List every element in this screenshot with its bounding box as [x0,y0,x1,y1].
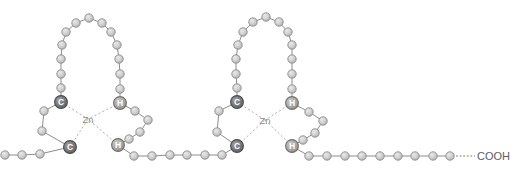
zinc-finger-2-cys-linker-bead-0 [215,107,223,115]
zinc-finger-2-hairpin-bead-5 [249,18,257,26]
zinc-finger-1-hairpin-bead-2 [57,55,65,63]
zinc-finger-2-hairpin-bead-10 [288,55,296,63]
zinc-finger-1-hairpin-bead-8 [107,28,115,36]
zinc-finger-2-hairpin-bead-8 [284,28,292,36]
zinc-coordination-layer [61,102,292,147]
zinc-finger-1-hairpin-bead-10 [115,55,123,63]
zinc-finger-1-his-linker-bead-0 [131,107,139,115]
zinc-finger-1-his-1 [114,97,127,110]
zinc-finger-1-hairpin-bead-3 [58,41,66,49]
inter-finger-backbone-bead-5 [218,151,226,159]
zinc-finger-2-his-linker-bead-2 [311,129,319,137]
zinc-finger-1-his-linker-bead-3 [125,135,133,143]
c-terminal-backbone-bead-8 [446,152,454,160]
zinc-finger-1-hairpin-bead-9 [113,41,121,49]
zinc-finger-2-cys-3 [231,96,244,109]
inter-finger-backbone-bead-0 [130,152,138,160]
zinc-finger-2-hairpin-bead-1 [232,70,240,78]
c-terminal-backbone-bead-5 [394,152,402,160]
n-terminal-backbone-bead-1 [18,151,26,159]
c-terminal-backbone-bead-7 [429,152,437,160]
zinc-finger-diagram-canvas: CCHHZnCCHHZnCOOH [0,0,522,170]
zinc-finger-1-his-2 [112,139,125,152]
c-terminal-backbone-bead-0 [305,152,313,160]
zinc-finger-1-hairpin-bead-11 [116,70,124,78]
residue-beads-layer [1,13,454,160]
c-terminal-backbone-bead-3 [358,152,366,160]
zinc-finger-1-hairpin-bead-4 [62,28,70,36]
zinc-finger-1-hairpin-bead-0 [57,84,65,92]
zinc-finger-2-hairpin-bead-12 [288,85,296,93]
zinc-finger-2-his-linker-bead-0 [305,108,313,116]
zinc-finger-2-his-4 [286,140,299,153]
zinc-finger-1-hairpin-bead-6 [85,14,93,22]
zinc-finger-1-cys-2 [64,141,77,154]
c-terminal-backbone-bead-1 [323,152,331,160]
c-terminal-backbone-bead-4 [376,152,384,160]
zinc-finger-1-his-linker-bead-2 [136,128,144,136]
zinc-finger-2-hairpin-bead-9 [288,41,296,49]
zinc-finger-2-cys-linker-bead-1 [213,128,221,136]
zinc-finger-1-cys-1 [55,96,68,109]
zinc-finger-1-cys-linker-bead-1 [38,127,46,135]
zinc-finger-2-his-linker-bead-3 [299,136,307,144]
zinc-finger-2-cys-4 [231,140,244,153]
c-terminal-backbone-bead-6 [411,152,419,160]
zinc-finger-2-hairpin-bead-11 [288,70,296,78]
c-terminal-backbone-bead-2 [341,152,349,160]
inter-finger-backbone-bead-4 [201,151,209,159]
zinc-finger-2-hairpin-bead-2 [232,55,240,63]
zinc-finger-2-hairpin-bead-3 [234,41,242,49]
zinc-finger-figure: CCHHZnCCHHZnCOOH [0,0,522,170]
zinc-finger-2-hairpin-bead-0 [233,84,241,92]
zinc-finger-1-cys-linker-bead-0 [40,107,48,115]
zinc-finger-2-hairpin-bead-4 [239,28,247,36]
inter-finger-backbone-bead-1 [148,152,156,160]
zinc-finger-1-hairpin-bead-5 [72,19,80,27]
labels-layer: CCHHZnCCHHZnCOOH [58,97,510,162]
zinc-finger-1-hairpin-bead-7 [98,19,106,27]
inter-finger-backbone-bead-2 [166,151,174,159]
n-terminal-backbone-bead-2 [36,150,44,158]
zinc-finger-2-his-3 [286,97,299,110]
c-terminus-label: COOH [477,150,510,162]
inter-finger-backbone-bead-3 [183,151,191,159]
n-terminal-backbone-bead-0 [1,151,9,159]
zinc-finger-2-his-linker-bead-1 [319,117,327,125]
zinc-finger-2-hairpin-bead-7 [275,18,283,26]
zinc-finger-1-his-linker-bead-1 [144,116,152,124]
zinc-finger-1-hairpin-bead-1 [57,70,65,78]
zinc-finger-1-hairpin-bead-12 [116,85,124,93]
zinc-finger-2-hairpin-bead-6 [262,13,270,21]
